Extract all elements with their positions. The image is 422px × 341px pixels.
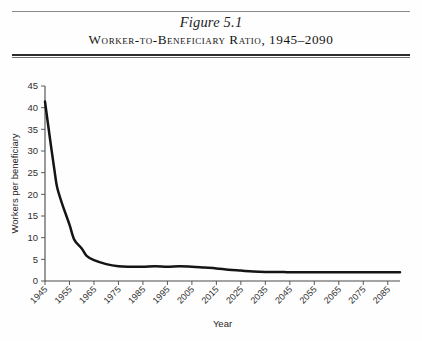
y-tick-label: 15 [27, 210, 38, 221]
x-tick-label: 2075 [346, 284, 367, 305]
x-axis-title: Year [213, 318, 232, 329]
y-axis-ticks: 051015202530354045 [27, 80, 45, 286]
line-chart-svg: 051015202530354045 194519551965197519851… [0, 0, 422, 341]
y-axis-title: Workers per beneficiary [9, 133, 20, 233]
x-tick-label: 1975 [102, 284, 123, 305]
x-tick-label: 1995 [151, 284, 172, 305]
y-tick-label: 25 [27, 167, 38, 178]
x-tick-label: 1965 [77, 284, 98, 305]
x-tick-label: 2035 [249, 284, 270, 305]
data-series-line [45, 102, 400, 273]
y-tick-label: 30 [27, 145, 38, 156]
x-tick-label: 2055 [297, 284, 318, 305]
x-tick-label: 2005 [175, 284, 196, 305]
y-tick-label: 35 [27, 124, 38, 135]
x-tick-label: 2025 [224, 284, 245, 305]
x-tick-label: 2065 [322, 284, 343, 305]
y-tick-label: 10 [27, 232, 38, 243]
x-tick-label: 2015 [200, 284, 221, 305]
y-tick-label: 45 [27, 80, 38, 91]
figure-container: Figure 5.1 Worker-to-Beneficiary Ratio, … [0, 0, 422, 341]
x-axis-ticks: 1945195519651975198519952005201520252035… [28, 281, 392, 306]
x-tick-label: 2045 [273, 284, 294, 305]
y-tick-label: 20 [27, 189, 38, 200]
chart-plot-area: 051015202530354045 194519551965197519851… [0, 0, 422, 341]
y-tick-label: 40 [27, 102, 38, 113]
axis-lines [45, 86, 400, 281]
y-tick-label: 0 [33, 275, 38, 286]
x-tick-label: 1945 [28, 284, 49, 305]
y-tick-label: 5 [33, 254, 38, 265]
x-tick-label: 2085 [371, 284, 392, 305]
x-tick-label: 1985 [126, 284, 147, 305]
x-tick-label: 1955 [53, 284, 74, 305]
